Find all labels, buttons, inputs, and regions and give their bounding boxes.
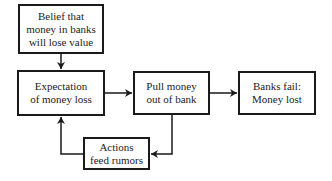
node-actions: Actions feed rumors [83, 137, 150, 170]
node-pull: Pull money out of bank [133, 71, 210, 115]
node-belief: Belief that money in banks will lose val… [18, 4, 104, 54]
node-expectation: Expectation of money loss [17, 70, 105, 116]
node-fail-label: Banks fail: Money lost [240, 80, 314, 106]
node-belief-label: Belief that money in banks will lose val… [20, 10, 102, 49]
node-pull-label: Pull money out of bank [135, 80, 208, 106]
edge-pull-to-actions [151, 115, 172, 154]
edge-actions-to-expectation [61, 117, 83, 154]
node-fail: Banks fail: Money lost [238, 71, 316, 115]
node-expectation-label: Expectation of money loss [19, 80, 103, 106]
node-actions-label: Actions feed rumors [85, 141, 148, 167]
